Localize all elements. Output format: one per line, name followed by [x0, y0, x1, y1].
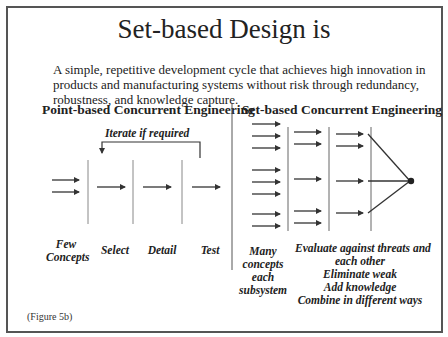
stage-label-detail: Detail — [144, 244, 180, 257]
figure-caption: (Figure 5b) — [27, 311, 72, 322]
stage-label-few-concepts: Few Concepts — [46, 238, 86, 264]
many-concepts-label: Many concepts each subsystem — [238, 245, 288, 297]
stage-label-select: Select — [98, 244, 132, 257]
stage-label-test: Test — [196, 244, 224, 257]
evaluate-label: Evaluate against threats and each other … — [295, 242, 425, 307]
